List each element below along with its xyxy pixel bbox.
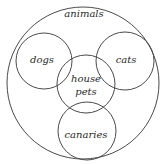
house-pets-label-line1: house	[71, 73, 101, 84]
cats-label: cats	[116, 54, 137, 65]
dogs-label: dogs	[30, 54, 54, 65]
house-pets-label-line2: pets	[75, 86, 96, 97]
canaries-label: canaries	[65, 129, 108, 140]
venn-diagram: animals dogs cats house pets canaries	[0, 0, 165, 164]
animals-label: animals	[64, 8, 103, 19]
house-pets-circle	[57, 55, 115, 113]
